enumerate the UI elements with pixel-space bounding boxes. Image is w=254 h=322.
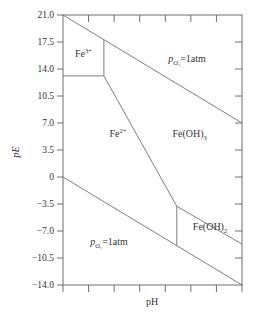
y-tick-label: −14.0 [32,280,54,290]
x-axis-label: pH [146,296,158,307]
y-tick-label: −7.0 [37,226,54,236]
y-tick-label: 0 [49,172,54,182]
y-tick-label: 21.0 [37,10,54,20]
boundary-line [63,15,242,123]
y-ticks: 21.017.514.010.57.03.50−3.5−7.0−10.5−14.… [32,10,242,290]
y-tick-label: 3.5 [42,145,54,155]
y-tick-label: −10.5 [32,253,54,263]
region-label-feoh3: Fe(OH)3 [172,128,206,141]
y-tick-label: 7.0 [42,118,54,128]
y-axis-label: pE [10,146,21,158]
region-labels: Fe3+Fe2+Fe(OH)3Fe(OH)2pO₂=1atmpO₂=1atm [75,47,227,249]
y-tick-label: 17.5 [37,37,54,47]
y-tick-label: 10.5 [37,91,54,101]
x-ticks [63,15,242,292]
region-label-po2-upper: pO₂=1atm [167,53,206,66]
region-label-fe3: Fe3+ [75,47,92,59]
region-label-po2-lower: pO₂=1atm [89,236,128,249]
boundary-line [104,76,177,206]
y-tick-label: 14.0 [37,64,54,74]
pourbaix-diagram: 21.017.514.010.57.03.50−3.5−7.0−10.5−14.… [0,0,254,322]
y-tick-label: −3.5 [37,199,54,209]
region-label-fe2: Fe2+ [110,127,127,139]
